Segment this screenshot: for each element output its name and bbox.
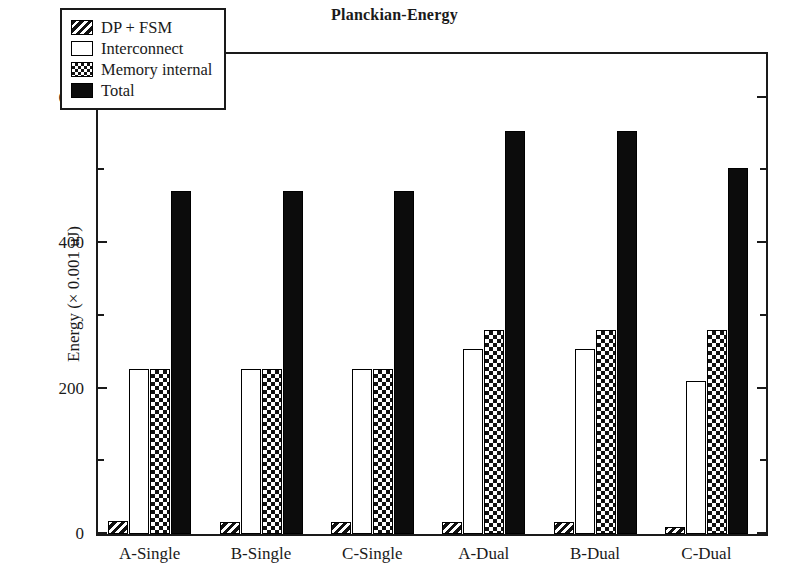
bar-group [665, 54, 748, 534]
bar-group [108, 54, 191, 534]
bar [596, 330, 616, 534]
bar [241, 369, 261, 534]
y-tick-major-right [757, 387, 766, 389]
bar [220, 522, 240, 534]
bar [728, 168, 748, 534]
y-tick-minor-right [760, 314, 766, 316]
legend-item-label: Total [101, 81, 135, 101]
legend-item: DP + FSM [71, 17, 212, 38]
bar [442, 522, 462, 534]
legend-item-label: DP + FSM [101, 18, 172, 38]
checkerboard-swatch [71, 62, 93, 77]
solid-black-swatch [71, 83, 93, 98]
x-tick-label: A-Dual [458, 544, 509, 564]
y-tick-label: 200 [59, 379, 85, 399]
bar [554, 522, 574, 534]
legend-item: Memory internal [71, 59, 212, 80]
bar [352, 369, 372, 534]
x-tick-label: B-Single [231, 544, 291, 564]
bar [108, 521, 128, 534]
diagonal-hatch-swatch [71, 20, 93, 35]
bar [463, 349, 483, 534]
bar [484, 330, 504, 534]
legend-item-label: Interconnect [101, 39, 183, 59]
y-tick-minor [98, 314, 104, 316]
bar-group [331, 54, 414, 534]
y-tick-minor-right [760, 168, 766, 170]
bar [331, 522, 351, 534]
bar [283, 191, 303, 534]
bar [262, 369, 282, 534]
bar-group [220, 54, 303, 534]
bar-group [442, 54, 525, 534]
x-tick-label: A-Single [119, 544, 180, 564]
plot-area: 0200400600 [96, 52, 768, 536]
bar [150, 369, 170, 534]
y-tick-major [98, 532, 107, 534]
bar [394, 191, 414, 534]
y-tick-minor-right [760, 459, 766, 461]
y-tick-major-right [757, 241, 766, 243]
y-tick-major-right [757, 532, 766, 534]
empty-swatch [71, 41, 93, 56]
legend-item: Total [71, 80, 212, 101]
y-tick-minor [98, 168, 104, 170]
bar [575, 349, 595, 534]
legend-item: Interconnect [71, 38, 212, 59]
bar [686, 381, 706, 534]
bar [665, 527, 685, 534]
chart-figure: Planckian-Energy Energy (× 0.001 uJ) 020… [0, 0, 789, 587]
bar [129, 369, 149, 534]
bar [707, 330, 727, 534]
y-tick-major-right [757, 96, 766, 98]
y-tick-label: 0 [76, 524, 85, 544]
plot-inner: 0200400600 [98, 54, 766, 534]
x-tick-label: C-Single [342, 544, 402, 564]
x-tick-label: B-Dual [570, 544, 620, 564]
bar [505, 131, 525, 534]
y-tick-major [98, 387, 107, 389]
chart-legend: DP + FSMInterconnectMemory internalTotal [60, 8, 226, 110]
bar [373, 369, 393, 534]
bar-group [554, 54, 637, 534]
bar [617, 131, 637, 534]
legend-rows: DP + FSMInterconnectMemory internalTotal [71, 17, 212, 101]
legend-item-label: Memory internal [101, 60, 212, 80]
y-tick-major [98, 241, 107, 243]
bar [171, 191, 191, 534]
y-tick-label: 400 [59, 233, 85, 253]
y-tick-minor [98, 459, 104, 461]
x-tick-label: C-Dual [681, 544, 731, 564]
